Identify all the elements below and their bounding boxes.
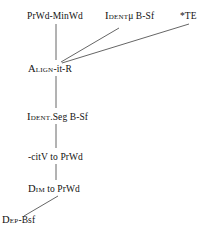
constraint-node-identmu-bsf: Identμ B-Sf [105, 11, 154, 22]
constraint-node-dep-bsf-smallcaps: Dep [2, 214, 18, 225]
constraint-node-citv-to-prwd: -citV to PrWd [28, 152, 83, 163]
constraint-node-align-it-r: Align-it-R [28, 64, 72, 75]
constraint-node-align-it-r-smallcaps: Align [28, 63, 53, 74]
constraint-node-ident-seg-bsf-smallcaps: Ident [27, 111, 50, 122]
constraint-node-citv-to-prwd-label: -citV to PrWd [28, 152, 83, 162]
edge-te-to-align-it-r [62, 24, 189, 63]
constraint-node-prwd-minwd: PrWd-MinWd [27, 11, 83, 22]
constraint-node-dep-bsf-label: -Bsf [18, 215, 35, 225]
constraint-node-dep-bsf: Dep-Bsf [2, 215, 35, 226]
constraint-node-prwd-minwd-label: PrWd-MinWd [27, 11, 83, 21]
constraint-node-dim-to-prwd-smallcaps: Dim [28, 183, 45, 194]
constraint-node-identmu-bsf-label: μ B-Sf [128, 11, 154, 21]
edge-identmu-bsf-to-align-it-r [61, 28, 119, 62]
constraint-node-align-it-r-label: -it-R [53, 64, 71, 74]
constraint-node-ident-seg-bsf-label: .Seg B-Sf [50, 112, 88, 122]
constraint-node-te-label: *TE [180, 11, 197, 21]
edge-dim-prwd-to-dep-bsf [24, 196, 58, 216]
constraint-node-ident-seg-bsf: Ident.Seg B-Sf [27, 112, 88, 123]
constraint-ranking-diagram: PrWd-MinWd Identμ B-Sf *TE Align-it-R Id… [0, 0, 212, 235]
constraint-node-te: *TE [180, 11, 197, 22]
constraint-node-dim-to-prwd-label: to PrWd [45, 184, 80, 194]
constraint-node-dim-to-prwd: Dim to PrWd [28, 184, 80, 195]
constraint-node-identmu-bsf-smallcaps: Ident [105, 10, 128, 21]
